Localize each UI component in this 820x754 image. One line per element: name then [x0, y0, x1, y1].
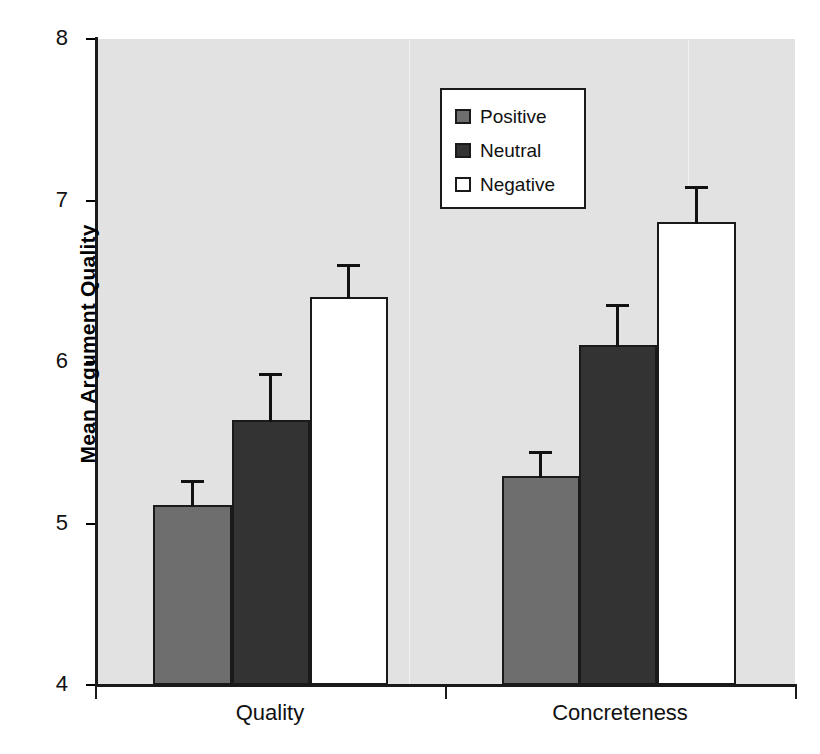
legend: Positive Neutral Negative [440, 88, 586, 209]
errorbar-cap-quality-neutral [259, 373, 282, 376]
bar-concreteness-negative [657, 222, 736, 685]
y-tick-mark-8 [86, 38, 95, 40]
y-tick-label-5: 5 [28, 512, 68, 534]
errorbar-stem-concreteness-positive [539, 452, 542, 478]
x-tick-mark-middle [445, 687, 447, 699]
errorbar-stem-concreteness-negative [695, 187, 698, 224]
legend-item-negative: Negative [455, 167, 584, 201]
scan-artifact-line [409, 40, 410, 684]
errorbar-stem-quality-positive [191, 481, 194, 507]
y-tick-mark-7 [86, 200, 95, 202]
errorbar-stem-concreteness-neutral [616, 305, 619, 347]
x-category-label-quality: Quality [120, 700, 420, 726]
y-tick-label-8: 8 [28, 27, 68, 49]
y-tick-mark-4 [86, 684, 95, 686]
x-category-label-concreteness: Concreteness [470, 700, 770, 726]
scan-artifact-line [688, 40, 689, 190]
errorbar-cap-quality-positive [181, 480, 204, 483]
y-tick-label-6: 6 [28, 350, 68, 372]
bar-concreteness-neutral [579, 345, 657, 685]
y-axis-title: Mean Argument Quality [76, 184, 100, 504]
legend-swatch-negative-icon [455, 177, 471, 192]
bar-quality-negative [310, 297, 388, 685]
errorbar-cap-concreteness-neutral [606, 304, 629, 307]
errorbar-cap-concreteness-negative [685, 186, 708, 189]
bar-chart-figure: Mean Argument Quality 8 7 6 5 4 Quality … [0, 0, 820, 754]
errorbar-cap-quality-negative [337, 264, 360, 267]
y-tick-label-4: 4 [28, 673, 68, 695]
x-tick-mark-end [795, 687, 797, 699]
y-tick-label-7: 7 [28, 189, 68, 211]
legend-label-positive: Positive [480, 107, 547, 126]
legend-label-neutral: Neutral [480, 141, 541, 160]
legend-swatch-positive-icon [455, 109, 471, 124]
errorbar-stem-quality-negative [347, 265, 350, 299]
legend-item-neutral: Neutral [455, 133, 584, 167]
bar-concreteness-positive [502, 476, 580, 685]
errorbar-cap-concreteness-positive [529, 451, 552, 454]
x-tick-mark-start [95, 687, 97, 699]
errorbar-stem-quality-neutral [269, 374, 272, 422]
legend-swatch-neutral-icon [455, 143, 471, 158]
legend-item-positive: Positive [455, 99, 584, 133]
y-tick-mark-6 [86, 361, 95, 363]
y-tick-mark-5 [86, 523, 95, 525]
legend-label-negative: Negative [480, 175, 555, 194]
bar-quality-positive [153, 505, 232, 685]
bar-quality-neutral [232, 420, 310, 685]
